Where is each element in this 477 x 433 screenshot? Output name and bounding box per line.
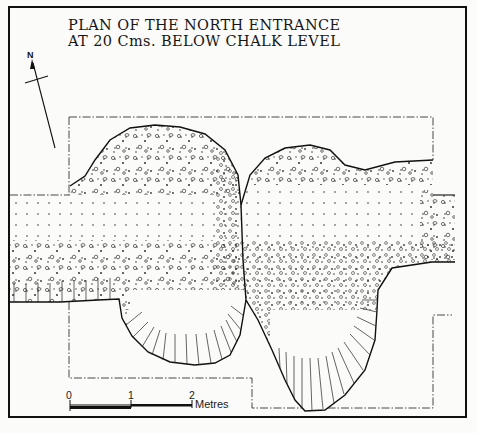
scale-tick-0: 0 xyxy=(66,389,72,401)
right-ditch-fill xyxy=(230,140,470,420)
drawing-sheet: PLAN OF THE NORTH ENTRANCE AT 20 Cms. BE… xyxy=(0,0,477,433)
site-plan: N xyxy=(0,0,477,433)
scale-tick-1: 1 xyxy=(128,389,134,401)
scale-bar xyxy=(70,400,192,411)
left-ditch-fill xyxy=(0,100,260,380)
arrow-head-icon xyxy=(30,59,35,69)
scale-tick-2: 2 xyxy=(189,389,195,401)
north-arrow: N xyxy=(25,50,55,148)
scale-unit: Metres xyxy=(195,398,229,410)
north-label: N xyxy=(27,50,34,60)
